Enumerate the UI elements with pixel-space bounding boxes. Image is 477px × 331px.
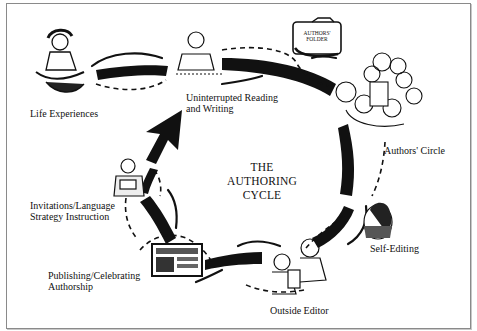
figure-reading-writing	[176, 32, 222, 74]
label-self-editing: Self-Editing	[370, 243, 419, 254]
arrow-life-to-reading	[96, 65, 168, 80]
figure-life-experiences	[36, 30, 84, 92]
diagram-title: THE AUTHORING CYCLE	[222, 160, 302, 202]
figure-self-editing	[364, 203, 392, 239]
label-authors-circle: Authors' Circle	[384, 145, 445, 156]
arrow-invite-to-reading	[146, 110, 182, 164]
label-life-experiences: Life Experiences	[30, 108, 98, 119]
arrow-editor-to-publish	[205, 252, 262, 270]
figure-invitations	[114, 159, 144, 196]
title-line-2: AUTHORING	[222, 174, 302, 188]
folder-label: AUTHORS' FOLDER	[300, 30, 334, 42]
title-line-1: THE	[222, 160, 302, 174]
label-outside-editor: Outside Editor	[270, 305, 329, 316]
arrow-reading-to-circle	[222, 58, 336, 96]
arrow-circle-to-selfedit	[338, 124, 354, 196]
figure-authors-circle	[336, 53, 422, 126]
arrow-selfedit-to-editor	[312, 206, 354, 248]
label-uninterrupted-reading-writing: Uninterrupted Reading and Writing	[186, 92, 278, 114]
icon-published-book	[152, 244, 202, 276]
label-invitations-language: Invitations/Language Strategy Instructio…	[30, 200, 115, 222]
title-line-3: CYCLE	[222, 188, 302, 202]
label-publishing-celebrating: Publishing/Celebrating Authorship	[48, 270, 140, 292]
